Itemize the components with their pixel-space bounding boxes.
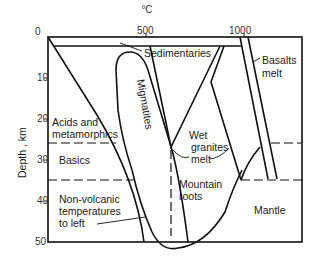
label-sedimentaries: Sedimentaries xyxy=(144,47,211,59)
label-to-left: to left xyxy=(59,217,85,229)
y-tick-50: 50 xyxy=(35,236,47,247)
label-mountain: Mountain xyxy=(179,178,222,190)
y-axis-label: Depth , km xyxy=(16,127,28,178)
label-acids: Acids and xyxy=(52,116,98,128)
x-tick-500: 500 xyxy=(137,25,154,36)
label-non-volcanic: Non-volcanic xyxy=(59,193,120,205)
y-tick-30: 30 xyxy=(37,154,49,165)
label-melt: melt xyxy=(191,153,211,165)
wet-granites-right xyxy=(211,46,241,180)
label-basalts: Basalts xyxy=(262,54,296,66)
x-tick-1000: 1000 xyxy=(229,25,252,36)
y-tick-10: 10 xyxy=(37,72,49,83)
wet-granites-v xyxy=(150,46,220,147)
label-basics: Basics xyxy=(59,154,90,166)
x-axis-unit: °C xyxy=(141,4,152,15)
y-tick-20: 20 xyxy=(37,113,49,124)
label-temperatures: temperatures xyxy=(59,205,121,217)
geotherm-diagram: °C 0 500 1000 10 20 30 40 50 Depth , km … xyxy=(0,0,317,264)
label-metamorphics: metamorphics xyxy=(52,128,118,140)
label-wet: Wet xyxy=(189,129,208,141)
label-roots: roots xyxy=(179,190,202,202)
label-mantle: Mantle xyxy=(254,204,286,216)
migmatites-right-curve xyxy=(116,52,188,242)
label-basalts-melt: melt xyxy=(262,67,282,79)
label-granites: granites xyxy=(191,141,228,153)
y-tick-40: 40 xyxy=(37,195,49,206)
x-tick-0: 0 xyxy=(35,26,41,37)
